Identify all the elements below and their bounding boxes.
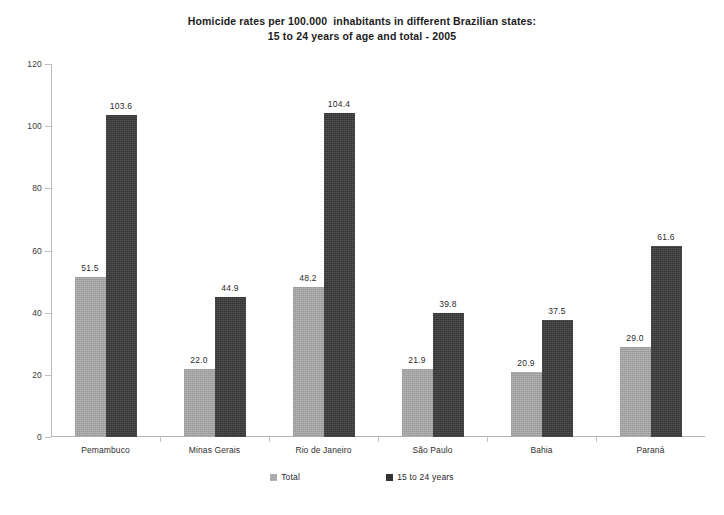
chart-title: Homicide rates per 100.000 inhabitants i… [0, 14, 724, 44]
x-axis-tick [596, 437, 597, 442]
y-tick-label: 100 [27, 121, 42, 131]
bar[interactable]: 22.0 [184, 369, 215, 437]
bar[interactable]: 51.5 [75, 277, 106, 437]
bar[interactable]: 44.9 [215, 297, 246, 437]
x-axis-category-label: Paraná [596, 445, 705, 455]
bar-value-label: 44.9 [221, 283, 238, 293]
bar[interactable]: 21.9 [402, 369, 433, 437]
bar-value-label: 104.4 [328, 99, 350, 109]
bar-value-label: 103.6 [110, 101, 132, 111]
x-axis-category-label: Rio de Janeiro [269, 445, 378, 455]
y-tick-mark [45, 437, 51, 438]
bar[interactable]: 29.0 [620, 347, 651, 437]
y-tick-label: 120 [27, 59, 42, 69]
bar-value-label: 61.6 [657, 232, 674, 242]
bar-value-label: 48.2 [299, 273, 316, 283]
bar-group-inner: 21.939.8 [402, 64, 464, 437]
bar-group-inner: 20.937.5 [511, 64, 573, 437]
x-axis-category-label: Pemambuco [51, 445, 160, 455]
plot-area: 020406080100120 51.5103.622.044.948.2104… [51, 64, 705, 437]
legend-swatch-icon [386, 474, 393, 481]
chart-title-line-1: Homicide rates per 100.000 inhabitants i… [0, 14, 724, 29]
bar[interactable]: 103.6 [106, 115, 137, 437]
bar-group: 20.937.5 [487, 64, 596, 437]
bar-group-inner: 29.061.6 [620, 64, 682, 437]
y-tick-label: 80 [32, 183, 42, 193]
y-tick-label: 60 [32, 246, 42, 256]
bar[interactable]: 48.2 [293, 287, 324, 437]
x-axis-tick [160, 437, 161, 442]
bar-chart: Homicide rates per 100.000 inhabitants i… [0, 0, 724, 515]
bar-value-label: 20.9 [517, 358, 534, 368]
legend-label: Total [281, 472, 300, 482]
bar-group: 51.5103.6 [51, 64, 160, 437]
x-axis-category-label: Minas Gerais [160, 445, 269, 455]
x-axis-tick [269, 437, 270, 442]
y-tick-label: 40 [32, 308, 42, 318]
bar[interactable]: 104.4 [324, 113, 355, 438]
bar[interactable]: 39.8 [433, 313, 464, 437]
bar-value-label: 51.5 [81, 263, 98, 273]
bar-value-label: 37.5 [548, 306, 565, 316]
x-axis-tick [487, 437, 488, 442]
bar-value-label: 22.0 [190, 355, 207, 365]
legend-item[interactable]: Total [270, 472, 300, 482]
y-tick-label: 0 [37, 432, 42, 442]
bar-group-inner: 51.5103.6 [75, 64, 137, 437]
bar-value-label: 39.8 [439, 299, 456, 309]
y-tick-label: 20 [32, 370, 42, 380]
chart-legend: Total15 to 24 years [0, 472, 724, 482]
bar-value-label: 29.0 [626, 333, 643, 343]
bar[interactable]: 61.6 [651, 246, 682, 437]
legend-swatch-icon [270, 474, 277, 481]
legend-label: 15 to 24 years [397, 472, 454, 482]
bar[interactable]: 20.9 [511, 372, 542, 437]
x-axis-category-label: Bahia [487, 445, 596, 455]
bar-group: 22.044.9 [160, 64, 269, 437]
x-axis-category-label: São Paulo [378, 445, 487, 455]
bar[interactable]: 37.5 [542, 320, 573, 437]
chart-title-line-2: 15 to 24 years of age and total - 2005 [0, 29, 724, 44]
bar-group: 21.939.8 [378, 64, 487, 437]
bar-group-inner: 48.2104.4 [293, 64, 355, 437]
bar-group: 29.061.6 [596, 64, 705, 437]
bar-value-label: 21.9 [408, 355, 425, 365]
bar-group: 48.2104.4 [269, 64, 378, 437]
bar-group-inner: 22.044.9 [184, 64, 246, 437]
x-axis-tick [378, 437, 379, 442]
legend-item[interactable]: 15 to 24 years [386, 472, 454, 482]
